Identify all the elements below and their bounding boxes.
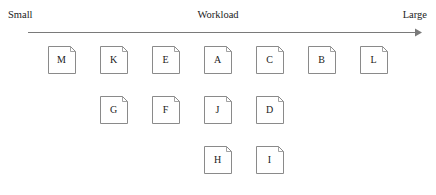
node-l[interactable]: L bbox=[360, 46, 388, 74]
node-b[interactable]: B bbox=[308, 46, 336, 74]
node-g[interactable]: G bbox=[100, 96, 128, 124]
node-d[interactable]: D bbox=[256, 96, 284, 124]
node-j[interactable]: J bbox=[204, 96, 232, 124]
node-label: J bbox=[204, 96, 232, 124]
axis-title: Workload bbox=[0, 10, 436, 21]
node-a[interactable]: A bbox=[204, 46, 232, 74]
node-label: G bbox=[100, 96, 128, 124]
node-e[interactable]: E bbox=[152, 46, 180, 74]
node-m[interactable]: M bbox=[48, 46, 76, 74]
workload-diagram: Small Workload Large MKEACBLGFJDHI bbox=[0, 0, 436, 195]
axis-max-label: Large bbox=[403, 10, 427, 21]
node-label: F bbox=[152, 96, 180, 124]
node-label: B bbox=[308, 46, 336, 74]
node-label: E bbox=[152, 46, 180, 74]
node-h[interactable]: H bbox=[204, 146, 232, 174]
node-label: L bbox=[360, 46, 388, 74]
node-label: A bbox=[204, 46, 232, 74]
node-f[interactable]: F bbox=[152, 96, 180, 124]
node-label: I bbox=[256, 146, 284, 174]
node-label: C bbox=[256, 46, 284, 74]
node-c[interactable]: C bbox=[256, 46, 284, 74]
node-label: D bbox=[256, 96, 284, 124]
node-label: M bbox=[48, 46, 76, 74]
right-arrow-icon bbox=[0, 22, 436, 44]
node-k[interactable]: K bbox=[100, 46, 128, 74]
node-label: H bbox=[204, 146, 232, 174]
node-label: K bbox=[100, 46, 128, 74]
node-i[interactable]: I bbox=[256, 146, 284, 174]
